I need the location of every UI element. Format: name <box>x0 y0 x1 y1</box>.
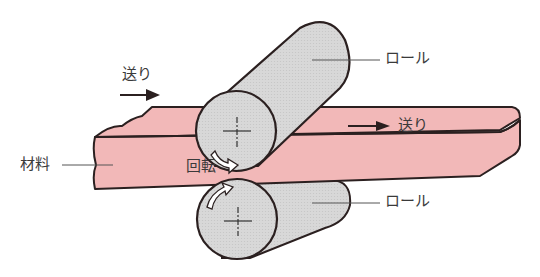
label-feed-in: 送り <box>122 67 152 82</box>
label-roll-top: ロール <box>385 51 430 66</box>
bottom-roll-end <box>197 179 277 259</box>
feed-in-arrow <box>120 89 160 101</box>
rolling-diagram <box>0 0 540 277</box>
label-rotation: 回転 <box>186 159 216 174</box>
label-roll-bottom: ロール <box>385 194 430 209</box>
label-material: 材料 <box>20 157 50 172</box>
label-feed-out: 送り <box>398 118 428 133</box>
